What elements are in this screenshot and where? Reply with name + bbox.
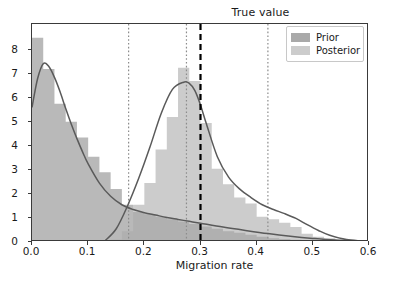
x-tick-label: 0.5 <box>290 245 334 257</box>
y-tick-mark <box>28 169 32 170</box>
y-tick-mark <box>28 121 32 122</box>
y-tick-mark <box>28 97 32 98</box>
x-tick-mark <box>200 241 201 245</box>
legend-item-posterior: Posterior <box>291 44 358 57</box>
x-tick-label: 0.4 <box>234 245 278 257</box>
x-tick-mark <box>87 241 88 245</box>
x-tick-label: 0.6 <box>346 245 390 257</box>
x-tick-label: 0.1 <box>65 245 109 257</box>
y-tick-mark <box>28 49 32 50</box>
y-tick-mark <box>28 145 32 146</box>
y-tick-label: 5 <box>0 115 18 127</box>
y-tick-label: 1 <box>0 211 18 223</box>
y-tick-label: 7 <box>0 67 18 79</box>
legend-item-prior: Prior <box>291 31 358 44</box>
legend-label-prior: Prior <box>316 31 339 44</box>
y-tick-label: 8 <box>0 43 18 55</box>
x-tick-label: 0.0 <box>9 245 53 257</box>
y-tick-label: 2 <box>0 187 18 199</box>
y-tick-mark <box>28 73 32 74</box>
chart-title: True value <box>0 6 393 19</box>
legend-swatch-posterior <box>291 46 310 55</box>
legend-swatch-prior <box>291 33 310 42</box>
y-tick-mark <box>28 193 32 194</box>
x-axis-label-text: Migration rate <box>176 259 254 272</box>
x-tick-mark <box>31 241 32 245</box>
x-tick-label: 0.3 <box>178 245 222 257</box>
y-tick-label: 3 <box>0 163 18 175</box>
y-tick-mark <box>28 217 32 218</box>
x-tick-label: 0.2 <box>121 245 165 257</box>
legend-label-posterior: Posterior <box>316 44 360 57</box>
x-tick-mark <box>143 241 144 245</box>
y-tick-label: 6 <box>0 91 18 103</box>
y-tick-label: 4 <box>0 139 18 151</box>
legend: Prior Posterior <box>286 26 364 62</box>
x-tick-mark <box>256 241 257 245</box>
x-tick-mark <box>368 241 369 245</box>
x-tick-mark <box>312 241 313 245</box>
x-axis-label: Migration rate <box>0 259 393 272</box>
figure: True value 012345678 0.00.10.20.30.40.50… <box>0 0 393 281</box>
chart-title-text: True value <box>232 6 290 19</box>
